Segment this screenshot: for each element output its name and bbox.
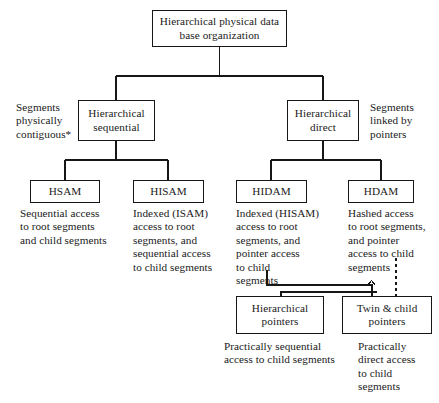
side-label-left: Segments physically contiguous* xyxy=(16,101,78,141)
description-twin-child-pointers: Practically direct access to child segme… xyxy=(358,340,438,394)
node-root[interactable]: Hierarchical physical data base organiza… xyxy=(152,10,287,47)
node-hisam[interactable]: HISAM xyxy=(133,180,204,203)
description-hierarchical-pointers: Practically sequential access to child s… xyxy=(224,340,344,367)
node-hidam[interactable]: HIDAM xyxy=(236,180,307,203)
node-twin-child-pointers[interactable]: Twin & child pointers xyxy=(342,296,432,334)
diagram-canvas: Hierarchical physical data base organiza… xyxy=(0,0,439,403)
node-hierarchical-pointers[interactable]: Hierarchical pointers xyxy=(236,296,324,334)
node-hdam[interactable]: HDAM xyxy=(348,180,414,203)
line-hop-crossing xyxy=(368,281,375,286)
description-hdam: Hashed access to root segments, and poin… xyxy=(348,207,438,274)
node-hierarchical-sequential[interactable]: Hierarchical sequential xyxy=(78,100,155,141)
node-hierarchical-direct[interactable]: Hierarchical direct xyxy=(287,100,359,141)
description-hsam: Sequential access to root segments and c… xyxy=(20,207,120,247)
node-hsam[interactable]: HSAM xyxy=(30,180,100,203)
description-hisam: Indexed (ISAM) access to root segments, … xyxy=(133,207,229,274)
side-label-right: Segments linked by pointers xyxy=(370,101,436,141)
description-hidam: Indexed (HISAM) access to root segments,… xyxy=(236,207,336,287)
